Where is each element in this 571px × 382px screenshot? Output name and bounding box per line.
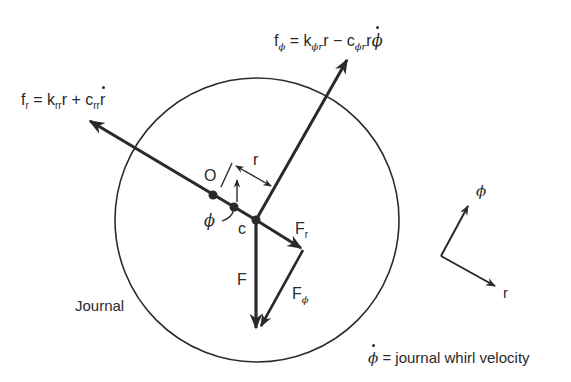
label-phi: ϕ (204, 213, 215, 229)
axis-phi-label: ϕ (476, 184, 486, 199)
fphi-equation: fϕ = kϕrr − cϕrrϕ (274, 33, 383, 52)
Fphi-main: F (292, 285, 302, 302)
legend-phidot: ϕ (368, 349, 378, 367)
fphi-force-arrow (256, 60, 347, 220)
axis-r-label: r (503, 285, 508, 300)
Fr-sub: r (305, 229, 308, 240)
fr-rdot: r (100, 91, 105, 108)
fphi-tail: r (366, 32, 371, 49)
label-Fphi: Fϕ (292, 286, 309, 305)
label-O: O (204, 168, 216, 184)
label-journal: Journal (75, 298, 124, 313)
label-Fr: Fr (295, 221, 308, 240)
fr-equation: fr = krrr + crrr (21, 92, 105, 111)
fr-r: r + c (62, 91, 94, 108)
label-F: F (237, 272, 247, 288)
fphi-eq: = k (285, 32, 311, 49)
label-r: r (253, 152, 258, 168)
Fphi-sub: ϕ (302, 294, 309, 305)
Fr-main: F (295, 220, 305, 237)
r-dimension-arrow (236, 166, 271, 186)
point-journal-center (252, 216, 261, 225)
label-c: c (238, 221, 246, 237)
fr-k-sub: rr (55, 100, 62, 111)
fphi-r: r − c (323, 32, 355, 49)
reference-tick (221, 163, 232, 187)
axis-phi-arrow (441, 206, 468, 256)
legend-whirl-velocity: ϕ = journal whirl velocity (368, 350, 530, 366)
fphi-phidot: ϕ (372, 31, 383, 50)
fphi-c-sub: ϕr (355, 41, 367, 52)
point-O (209, 191, 218, 200)
fr-c-sub: rr (93, 100, 100, 111)
fphi-k-sub: ϕr (312, 41, 324, 52)
legend-text: = journal whirl velocity (378, 349, 529, 366)
axis-r-arrow (441, 256, 495, 286)
fr-eq: = k (29, 91, 55, 108)
